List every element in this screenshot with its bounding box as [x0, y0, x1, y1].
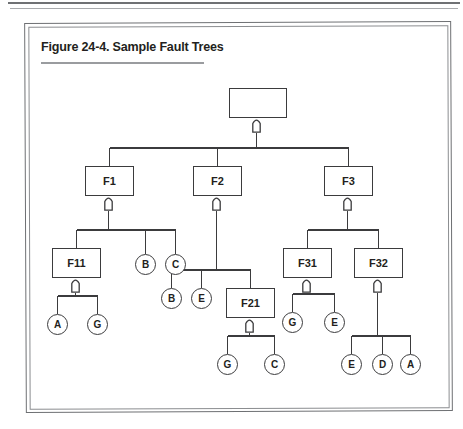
basic-event-c1: C	[165, 254, 186, 275]
page-header-rule-top	[8, 2, 460, 4]
or-gate-f32-icon	[373, 278, 382, 293]
basic-event-b1: B	[135, 254, 156, 275]
fault-node-f3: F3	[324, 166, 373, 196]
or-gate-f3-icon	[343, 196, 352, 211]
basic-event-g2: G	[217, 354, 238, 375]
basic-event-g3: G	[282, 312, 303, 333]
basic-event-c2: C	[264, 354, 285, 375]
or-gate-f21-icon	[245, 318, 254, 333]
basic-event-g1: G	[87, 314, 108, 335]
basic-event-e2: E	[324, 312, 345, 333]
fault-tree-canvas: F1F2F3F11F21F31F32BCAGBEGCGEEDA	[29, 26, 447, 407]
fault-tree-connectors	[29, 26, 447, 407]
fault-node-f31: F31	[283, 248, 332, 278]
page-header-rule-second	[10, 8, 458, 9]
fault-node-f11: F11	[52, 248, 101, 278]
fault-node-top	[229, 88, 287, 118]
basic-event-e3: E	[341, 354, 362, 375]
basic-event-a1: A	[47, 314, 68, 335]
or-gate-f11-icon	[71, 278, 80, 293]
or-gate-f1-icon	[104, 196, 113, 211]
basic-event-d1: D	[372, 354, 393, 375]
figure-container: Figure 24-4. Sample Fault Trees F1F2F3F1…	[29, 26, 447, 407]
or-gate-top-icon	[252, 118, 261, 133]
fault-node-f32: F32	[354, 248, 403, 278]
or-gate-f2-icon	[212, 196, 221, 211]
basic-event-a2: A	[400, 354, 421, 375]
fault-node-f2: F2	[193, 166, 242, 196]
basic-event-b2: B	[161, 288, 182, 309]
basic-event-e1: E	[191, 288, 212, 309]
or-gate-f31-icon	[302, 278, 311, 293]
fault-node-f21: F21	[226, 288, 275, 318]
fault-node-f1: F1	[85, 166, 134, 196]
